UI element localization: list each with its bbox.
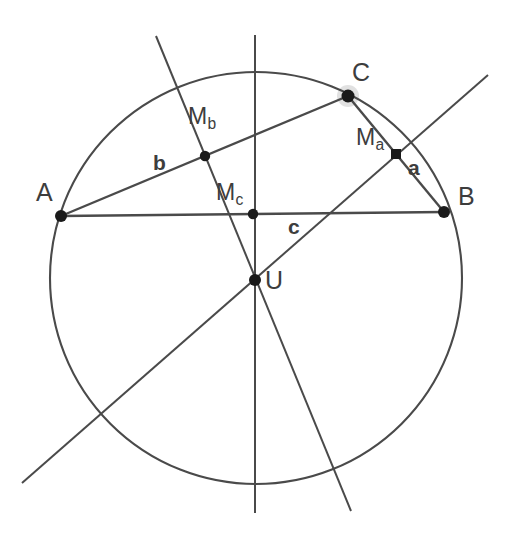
label-vertex-c: C <box>352 60 370 85</box>
label-midpoint-c-base: M <box>216 179 235 205</box>
label-midpoint-a-base: M <box>356 124 375 150</box>
label-circumcenter-u: U <box>265 268 283 293</box>
label-vertex-b: B <box>458 184 475 209</box>
geometry-canvas <box>0 0 515 543</box>
point-a <box>55 210 67 222</box>
label-midpoint-b: Mb <box>188 105 216 128</box>
point-b <box>438 206 450 218</box>
point-circumcenter-u <box>249 274 261 286</box>
point-midpoint-b <box>200 151 210 161</box>
point-midpoint-a <box>391 149 401 159</box>
label-midpoint-b-base: M <box>188 103 207 129</box>
point-c <box>342 90 355 103</box>
point-midpoint-c <box>248 209 258 219</box>
label-side-b: b <box>153 152 166 173</box>
label-midpoint-a-subscript: a <box>375 136 384 153</box>
label-side-a: a <box>408 157 420 178</box>
label-midpoint-c-subscript: c <box>235 191 243 208</box>
label-midpoint-c: Mc <box>216 181 243 204</box>
geometry-diagram: A B C U a b c Ma Mb Mc <box>0 0 515 543</box>
label-side-c: c <box>288 216 300 237</box>
label-midpoint-a: Ma <box>356 126 384 149</box>
label-vertex-a: A <box>36 180 53 205</box>
label-midpoint-b-subscript: b <box>207 115 216 132</box>
